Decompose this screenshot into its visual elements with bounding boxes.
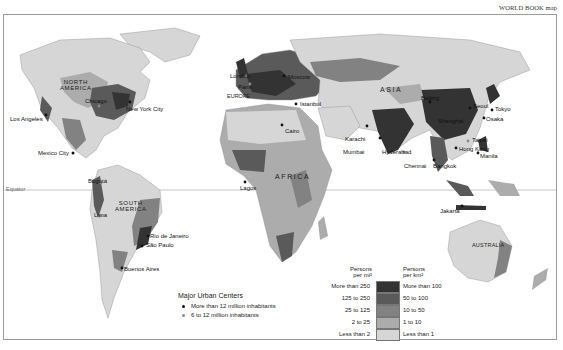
city-label-osaka: Osaka bbox=[486, 116, 503, 122]
city-label-sao-paulo: São Paulo bbox=[146, 242, 174, 248]
urban-legend-item-medium: 6 to 12 million inhabitants bbox=[178, 312, 276, 318]
city-label-rio: Rio de Janeiro bbox=[150, 233, 189, 239]
urban-legend-item-large: More than 12 million inhabitants bbox=[178, 303, 276, 309]
city-label-lima: Lima bbox=[94, 212, 107, 218]
density-km-label: 1 to 10 bbox=[403, 319, 421, 325]
density-header-mi: Persons per mi² bbox=[340, 266, 372, 279]
city-label-mumbai: Mumbai bbox=[343, 149, 364, 155]
label-africa: AFRICA bbox=[275, 173, 310, 180]
city-label-bangkok: Bangkok bbox=[433, 163, 456, 169]
label-australia: AUSTRALIA bbox=[472, 243, 504, 249]
city-label-london: London bbox=[230, 73, 250, 79]
city-label-hong-kong: Hong Kong bbox=[459, 146, 489, 152]
urban-centers-legend: Major Urban Centers More than 12 million… bbox=[178, 292, 276, 321]
city-label-hyderabad: Hyderabad bbox=[382, 149, 411, 155]
label-europe: EUROPE bbox=[227, 94, 250, 100]
density-swatch-1 bbox=[376, 281, 400, 293]
density-swatch-4 bbox=[376, 317, 400, 329]
city-label-bogota: Bogotá bbox=[88, 178, 107, 184]
city-label-chennai: Chennai bbox=[404, 163, 426, 169]
city-label-istanbul: Istanbul bbox=[300, 101, 321, 107]
city-label-mexico-city: Mexico City bbox=[38, 150, 69, 156]
large-city-dot-icon bbox=[182, 305, 185, 308]
city-label-los-angeles: Los Angeles bbox=[10, 116, 43, 122]
density-mi-label: 2 to 25 bbox=[300, 319, 370, 325]
city-label-manila: Manila bbox=[480, 153, 498, 159]
density-km-label: 10 to 50 bbox=[403, 307, 425, 313]
city-label-paris: Paris bbox=[238, 84, 252, 90]
density-swatch-5 bbox=[376, 329, 400, 341]
city-label-cairo: Cairo bbox=[285, 128, 299, 134]
density-swatch-3 bbox=[376, 305, 400, 317]
australia-shape bbox=[448, 220, 548, 290]
city-label-jakarta: Jakarta bbox=[440, 208, 460, 214]
city-label-chicago: Chicago bbox=[85, 98, 107, 104]
density-mi-label: More than 250 bbox=[300, 283, 370, 289]
city-label-karachi: Karachi bbox=[345, 136, 365, 142]
africa-shape bbox=[220, 104, 332, 262]
label-north-america: NORTH AMERICA bbox=[60, 79, 92, 92]
city-label-new-york: New York City bbox=[126, 106, 163, 112]
city-label-beijing: Beijing bbox=[421, 95, 439, 101]
urban-legend-title: Major Urban Centers bbox=[178, 292, 276, 299]
city-label-seoul: Seoul bbox=[473, 103, 488, 109]
label-south-america: SOUTH AMERICA bbox=[115, 200, 147, 213]
density-mi-label: 125 to 250 bbox=[300, 295, 370, 301]
city-label-tokyo: Tokyo bbox=[495, 106, 511, 112]
medium-city-dot-icon bbox=[182, 314, 185, 317]
city-label-taipei: Taipei bbox=[472, 137, 488, 143]
density-mi-label: 25 to 125 bbox=[300, 307, 370, 313]
city-label-buenos-aires: Buenos Aires bbox=[124, 266, 159, 272]
density-km-label: 50 to 100 bbox=[403, 295, 428, 301]
label-asia: ASIA bbox=[380, 86, 402, 93]
density-mi-label: Less than 2 bbox=[300, 331, 370, 337]
equator-label: Equator bbox=[6, 186, 25, 192]
density-header-km: Persons per km² bbox=[403, 266, 425, 279]
density-km-label: More than 100 bbox=[403, 283, 442, 289]
city-label-shanghai: Shanghai bbox=[438, 118, 463, 124]
city-label-lagos: Lagos bbox=[240, 185, 256, 191]
city-label-moscow: Moscow bbox=[288, 74, 310, 80]
density-swatch-2 bbox=[376, 293, 400, 305]
density-km-label: Less than 1 bbox=[403, 331, 434, 337]
